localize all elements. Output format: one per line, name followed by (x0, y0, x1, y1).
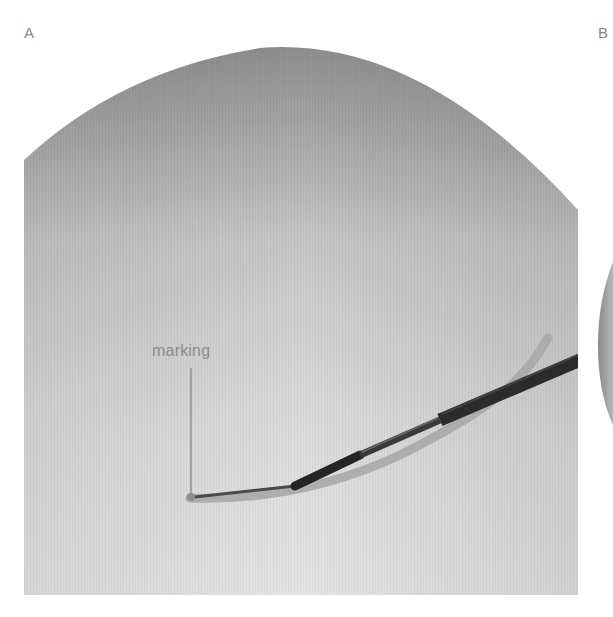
marking-label: marking (152, 342, 210, 360)
panel-b-image (598, 262, 613, 425)
panel-a-image (24, 40, 580, 600)
marking-dot (187, 493, 195, 501)
figure-canvas (0, 0, 613, 617)
